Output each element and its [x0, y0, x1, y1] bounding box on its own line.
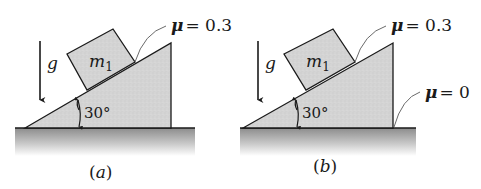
caption-a: (a): [89, 162, 112, 182]
panel-a: m1 g 30° μ= 0.3 (a): [15, 15, 232, 182]
gravity-label: g: [47, 53, 58, 73]
angle-label: 30°: [84, 104, 111, 122]
ground: [240, 128, 416, 156]
ground-friction-leader: [394, 92, 420, 127]
angle-label: 30°: [302, 104, 329, 122]
gravity-label: g: [265, 53, 276, 73]
caption-b: (b): [313, 156, 337, 176]
panel-b: m1 g 30° μ= 0.3 μ= 0 (b): [240, 15, 470, 176]
incline-diagram: m1 g 30° μ= 0.3 (a) m1 g 30° μ= 0.3 μ= 0…: [0, 0, 481, 189]
incline-friction-label: μ= 0.3: [391, 15, 452, 35]
ground-friction-label: μ= 0: [425, 82, 470, 102]
incline-friction-label: μ= 0.3: [171, 15, 232, 35]
ground: [15, 128, 195, 156]
